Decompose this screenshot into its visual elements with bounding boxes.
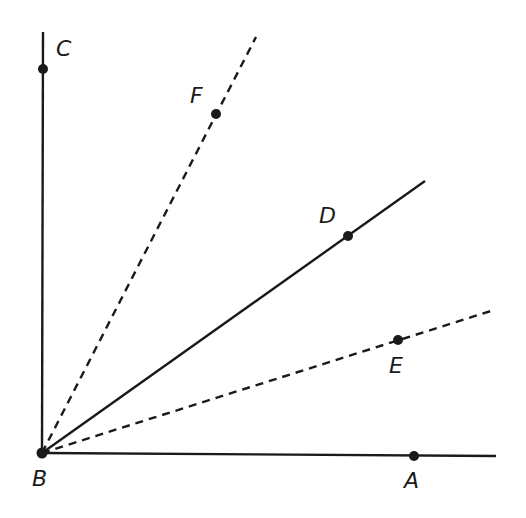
point-A [409, 451, 419, 461]
point-F [211, 109, 221, 119]
ray-BF [42, 37, 256, 453]
label-E: E [389, 353, 403, 378]
label-B: B [32, 466, 47, 491]
point-D [343, 231, 353, 241]
ray-BA [42, 453, 496, 456]
ray-BC [42, 32, 43, 453]
ray-BE [42, 310, 494, 453]
label-A: A [402, 468, 419, 493]
label-D: D [319, 203, 336, 228]
point-E [393, 335, 403, 345]
angle-figure: BCFDEA [0, 0, 526, 518]
point-B [37, 448, 48, 459]
ray-BD [42, 181, 425, 453]
geometry-diagram: BCFDEA [0, 0, 526, 518]
point-C [38, 64, 48, 74]
label-F: F [190, 83, 203, 108]
label-C: C [56, 36, 72, 61]
